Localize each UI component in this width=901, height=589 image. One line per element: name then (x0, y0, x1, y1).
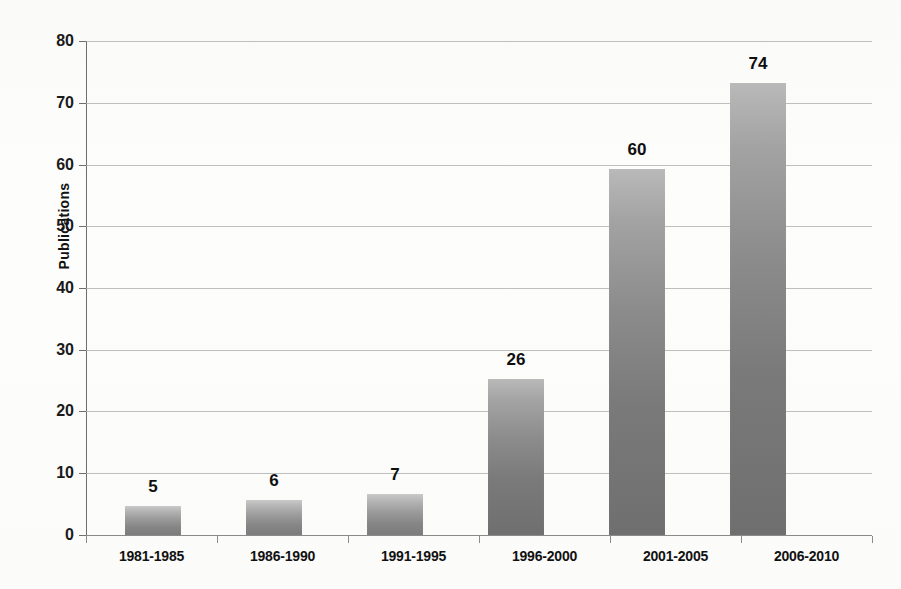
x-category-label-2006-2010: 2006-2010 (741, 548, 872, 564)
y-tick-mark (79, 41, 86, 42)
x-tick-mark (86, 536, 87, 543)
y-tick-label: 20 (38, 403, 74, 419)
y-tick-mark (79, 165, 86, 166)
x-category-label-1986-1990: 1986-1990 (217, 548, 348, 564)
chart-title-clipped (0, 0, 901, 2)
chart-figure: 80 70 60 50 40 30 20 10 0 Publications (0, 0, 901, 589)
y-tick-label: 10 (38, 465, 74, 481)
footer-bleed-artifact (120, 579, 820, 589)
bar-2001-2005 (609, 169, 665, 535)
bar-1991-1995 (367, 494, 423, 535)
x-tick-mark (479, 536, 480, 543)
x-category-label-1996-2000: 1996-2000 (479, 548, 610, 564)
y-tick-mark (79, 535, 86, 536)
y-axis-title: Publications (56, 156, 72, 296)
y-tick-label: 80 (38, 33, 74, 49)
bar-value-label: 60 (599, 141, 675, 158)
x-tick-mark (610, 536, 611, 543)
bar-value-label: 7 (357, 466, 433, 483)
bar-value-label: 74 (720, 55, 796, 72)
x-tick-mark (217, 536, 218, 543)
gridline-80 (86, 41, 872, 42)
x-category-label-1991-1995: 1991-1995 (348, 548, 479, 564)
y-tick-label: 70 (38, 95, 74, 111)
y-tick-mark (79, 473, 86, 474)
x-tick-mark (741, 536, 742, 543)
bar-1996-2000 (488, 379, 544, 535)
y-tick-label: 30 (38, 342, 74, 358)
bar-1986-1990 (246, 500, 302, 535)
x-category-label-1981-1985: 1981-1985 (86, 548, 217, 564)
plot-area: 5 6 7 26 60 74 (86, 41, 872, 535)
x-category-label-2001-2005: 2001-2005 (610, 548, 741, 564)
y-tick-mark (79, 103, 86, 104)
bar-value-label: 6 (236, 472, 312, 489)
y-tick-label: 0 (38, 527, 74, 543)
bar-1981-1985 (125, 506, 181, 535)
y-tick-mark (79, 411, 86, 412)
bar-value-label: 26 (478, 351, 554, 368)
y-tick-mark (79, 288, 86, 289)
x-tick-mark (348, 536, 349, 543)
x-tick-mark (872, 536, 873, 543)
bar-2006-2010 (730, 83, 786, 535)
y-tick-mark (79, 350, 86, 351)
y-tick-mark (79, 226, 86, 227)
bar-value-label: 5 (115, 478, 191, 495)
